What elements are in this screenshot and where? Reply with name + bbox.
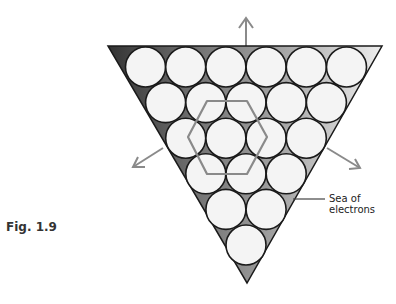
sea-label-line1: Sea of xyxy=(329,193,375,204)
arrow-down-right-icon xyxy=(327,148,360,169)
metal-ion xyxy=(166,47,206,87)
arrow-down-left-icon xyxy=(133,148,163,167)
metallic-lattice-diagram xyxy=(0,0,396,304)
metal-ion xyxy=(246,47,286,87)
sea-label-line2: electrons xyxy=(329,204,375,215)
figure-label: Fig. 1.9 xyxy=(6,220,57,234)
sea-of-electrons-label: Sea of electrons xyxy=(329,193,375,215)
metal-ion xyxy=(226,83,266,123)
metal-ion xyxy=(166,118,206,158)
metal-ion xyxy=(246,189,286,229)
metal-ion xyxy=(146,83,186,123)
metal-ion xyxy=(226,225,266,265)
metal-ion xyxy=(327,47,367,87)
metal-ion xyxy=(206,189,246,229)
metal-ion xyxy=(306,83,346,123)
metal-ion xyxy=(286,118,326,158)
arrow-up-icon xyxy=(239,18,253,46)
metal-ion xyxy=(206,118,246,158)
metal-ion xyxy=(266,83,306,123)
metal-ion xyxy=(286,47,326,87)
metal-ion xyxy=(266,154,306,194)
metal-ion xyxy=(206,47,246,87)
metal-ion xyxy=(126,47,166,87)
